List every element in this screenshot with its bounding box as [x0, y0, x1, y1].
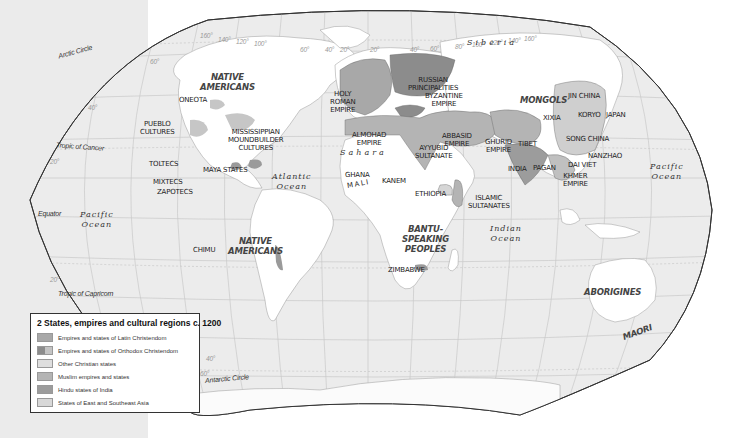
- native-americans-south-label: NATIVEAMERICANS: [228, 236, 283, 256]
- lat-20n-label: 20°: [50, 158, 59, 166]
- lon-160e-label: 160°: [524, 35, 537, 43]
- india-label: INDIA: [508, 165, 527, 173]
- lat-60s-label: 60°: [200, 370, 209, 378]
- song-china-label: SONG CHINA: [566, 135, 609, 143]
- dai-viet-label: DAI VIET: [568, 161, 596, 169]
- legend-item: Other Christian states: [37, 357, 193, 370]
- legend-swatch: [37, 359, 53, 368]
- aborigines-label: ABORIGINES: [584, 287, 641, 297]
- lon-20w-label: 20°: [340, 46, 349, 54]
- legend-item: Muslim empires and states: [37, 370, 193, 383]
- almohad-empire-label: ALMOHADEMPIRE: [352, 131, 386, 147]
- pacific-ocean-east-label: PacificOcean: [650, 162, 684, 182]
- lon-80e-label: 80°: [455, 43, 464, 51]
- ghurid-empire-label: GHURIDEMPIRE: [485, 138, 512, 154]
- mongols-label: MONGOLS: [520, 95, 567, 105]
- native-americans-north-label: NATIVEAMERICANS: [200, 72, 255, 92]
- siberia-label: Siberia: [467, 38, 517, 48]
- legend-item: Empires and states of Orthodox Christend…: [37, 344, 193, 357]
- japan-label: JAPAN: [606, 111, 626, 119]
- byzantine-empire-label: BYZANTINEEMPIRE: [425, 92, 463, 108]
- lon-120w-label: 120°: [236, 38, 249, 46]
- lon-60e-label: 60°: [430, 45, 439, 53]
- legend-swatch: [37, 398, 53, 407]
- tibet-label: TIBET: [518, 140, 537, 148]
- indian-ocean-label: IndianOcean: [490, 224, 522, 244]
- russian-principalities-label: RUSSIANPRINCIPALITIES: [408, 76, 458, 92]
- legend-swatch: [37, 346, 53, 355]
- lat-40n-label: 40°: [88, 104, 97, 112]
- tropic-of-capricorn-label: Tropic of Capricorn: [58, 290, 113, 298]
- mississippian-label: MISSISSIPPIANMOUNDBUILDERCULTURES: [228, 128, 283, 152]
- zapotecs-label: ZAPOTECS: [157, 188, 193, 196]
- khmer-empire-label: KHMEREMPIRE: [563, 172, 588, 188]
- ethiopia-label: ETHIOPIA: [415, 190, 446, 198]
- legend-item: Hindu states of India: [37, 383, 193, 396]
- pacific-ocean-west-label: PacificOcean: [80, 210, 114, 230]
- zimbabwe-label: ZIMBABWE: [388, 266, 425, 274]
- lon-40e-label: 40°: [410, 46, 419, 54]
- map-legend: 2 States, empires and cultural regions c…: [30, 313, 200, 413]
- lon-140w-label: 140°: [218, 36, 231, 44]
- lon-100w-label: 100°: [254, 40, 267, 48]
- mixtecs-label: MIXTECS: [153, 178, 182, 186]
- pagan-label: PAGAN: [533, 164, 556, 172]
- sahara-label: Sahara: [340, 148, 387, 158]
- oneota-label: ONEOTA: [179, 96, 207, 104]
- abbasid-empire-label: ABBASIDEMPIRE: [442, 132, 472, 148]
- pueblo-label: PUEBLOCULTURES: [140, 120, 174, 136]
- nanzhao-label: NANZHAO: [588, 152, 622, 160]
- kanem-label: KANEM: [382, 177, 406, 185]
- legend-item: States of East and Southeast Asia: [37, 396, 193, 409]
- koryo-label: KORYO: [578, 111, 601, 119]
- toltecs-label: TOLTECS: [149, 160, 178, 168]
- ghana-label: GHANA: [345, 171, 370, 179]
- lon-160w-label: 160°: [200, 32, 213, 40]
- chimu-label: CHIMU: [193, 246, 215, 254]
- atlantic-ocean-label: AtlanticOcean: [272, 172, 312, 192]
- lon-60w-label: 60°: [300, 46, 309, 54]
- legend-swatch: [37, 372, 53, 381]
- jin-china-label: JIN CHINA: [568, 92, 600, 100]
- xixia-label: XIXIA: [543, 114, 561, 122]
- islamic-sultanates-label: ISLAMICSULTANATES: [468, 194, 510, 210]
- legend-swatch: [37, 333, 53, 342]
- holy-roman-empire-label: HOLYROMANEMPIRE: [330, 90, 355, 114]
- maya-states-label: MAYA STATES: [203, 166, 247, 174]
- lat-40s-label: 40°: [206, 355, 215, 363]
- lon-40w-label: 40°: [325, 46, 334, 54]
- lat-20s-label: 20°: [50, 276, 59, 284]
- lon-20e-label: 20°: [370, 46, 379, 54]
- bantu-peoples-label: BANTU-SPEAKINGPEOPLES: [402, 224, 449, 254]
- legend-item: Empires and states of Latin Christendom: [37, 331, 193, 344]
- equator-label: Equator: [38, 210, 61, 218]
- lat-60n-label: 60°: [150, 58, 159, 66]
- legend-title: 2 States, empires and cultural regions c…: [37, 318, 193, 328]
- legend-swatch: [37, 385, 53, 394]
